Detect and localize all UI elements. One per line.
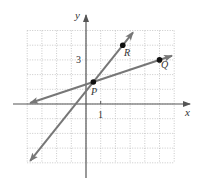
point-label-q: Q xyxy=(161,59,169,70)
point-label-p: P xyxy=(90,86,97,97)
lines xyxy=(30,32,172,161)
coordinate-plane: x y 1 3 P R Q xyxy=(0,0,201,185)
x-axis-label: x xyxy=(184,106,190,118)
y-axis-label: y xyxy=(74,9,80,21)
point-p xyxy=(91,79,97,85)
x-tick-label-1: 1 xyxy=(98,109,103,120)
line-pr xyxy=(30,32,133,161)
point-label-r: R xyxy=(123,47,130,58)
y-tick-label-3: 3 xyxy=(76,54,81,65)
axes xyxy=(13,15,190,178)
